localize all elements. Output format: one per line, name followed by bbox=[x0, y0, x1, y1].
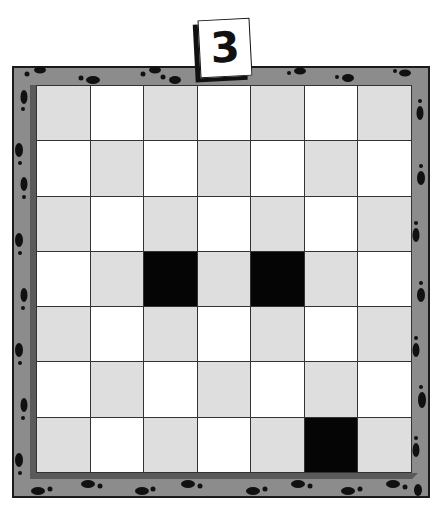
grid-cell-0-4[interactable] bbox=[251, 86, 304, 140]
grid-cell-3-5[interactable] bbox=[305, 252, 358, 306]
grid-cell-6-3[interactable] bbox=[198, 418, 251, 472]
grid-cell-0-1[interactable] bbox=[91, 86, 144, 140]
grid-cell-4-1[interactable] bbox=[91, 307, 144, 361]
grid-cell-3-0[interactable] bbox=[37, 252, 90, 306]
grid-cell-0-3[interactable] bbox=[198, 86, 251, 140]
grid-cell-1-1[interactable] bbox=[91, 141, 144, 195]
grid-cell-4-4[interactable] bbox=[251, 307, 304, 361]
grid-cell-4-3[interactable] bbox=[198, 307, 251, 361]
grid-cell-5-3[interactable] bbox=[198, 362, 251, 416]
grid-cell-2-6[interactable] bbox=[358, 197, 411, 251]
grid-cell-5-2[interactable] bbox=[144, 362, 197, 416]
grid-cell-1-2[interactable] bbox=[144, 141, 197, 195]
grid-cell-1-5[interactable] bbox=[305, 141, 358, 195]
grid-cell-2-3[interactable] bbox=[198, 197, 251, 251]
grid-cell-4-5[interactable] bbox=[305, 307, 358, 361]
grid-cell-6-6[interactable] bbox=[358, 418, 411, 472]
grid-cell-3-3[interactable] bbox=[198, 252, 251, 306]
grid-cell-5-5[interactable] bbox=[305, 362, 358, 416]
grid-cell-2-5[interactable] bbox=[305, 197, 358, 251]
grid-cell-4-6[interactable] bbox=[358, 307, 411, 361]
grid-cell-1-4[interactable] bbox=[251, 141, 304, 195]
grid-cell-5-0[interactable] bbox=[37, 362, 90, 416]
grid-cell-5-1[interactable] bbox=[91, 362, 144, 416]
grid-cell-6-0[interactable] bbox=[37, 418, 90, 472]
grid-cell-2-2[interactable] bbox=[144, 197, 197, 251]
level-number-tile: 3 bbox=[198, 18, 253, 79]
grid-cell-4-2[interactable] bbox=[144, 307, 197, 361]
puzzle-grid bbox=[36, 85, 412, 473]
grid-cell-0-5[interactable] bbox=[305, 86, 358, 140]
level-number: 3 bbox=[209, 26, 240, 69]
grid-cell-0-6[interactable] bbox=[358, 86, 411, 140]
grid-cell-2-1[interactable] bbox=[91, 197, 144, 251]
grid-cell-3-2[interactable] bbox=[144, 252, 197, 306]
grid-cell-3-6[interactable] bbox=[358, 252, 411, 306]
grid-cell-1-6[interactable] bbox=[358, 141, 411, 195]
grid-cell-2-0[interactable] bbox=[37, 197, 90, 251]
grid-cell-2-4[interactable] bbox=[251, 197, 304, 251]
grid-cell-6-5[interactable] bbox=[305, 418, 358, 472]
grid-cell-5-4[interactable] bbox=[251, 362, 304, 416]
grid-cell-1-0[interactable] bbox=[37, 141, 90, 195]
board-bevel-bottom bbox=[30, 473, 418, 479]
grid-cell-6-2[interactable] bbox=[144, 418, 197, 472]
grid-cell-0-2[interactable] bbox=[144, 86, 197, 140]
grid-cell-1-3[interactable] bbox=[198, 141, 251, 195]
grid-cell-5-6[interactable] bbox=[358, 362, 411, 416]
grid-cell-3-4[interactable] bbox=[251, 252, 304, 306]
grid-cell-6-4[interactable] bbox=[251, 418, 304, 472]
grid-cell-3-1[interactable] bbox=[91, 252, 144, 306]
grid-cell-0-0[interactable] bbox=[37, 86, 90, 140]
grid-cell-4-0[interactable] bbox=[37, 307, 90, 361]
grid-cell-6-1[interactable] bbox=[91, 418, 144, 472]
